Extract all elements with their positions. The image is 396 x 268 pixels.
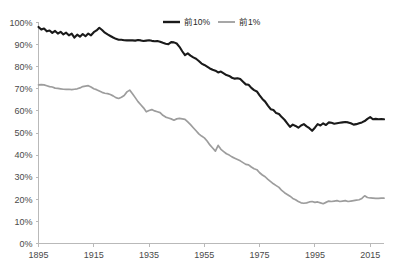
y-tick-label: 80%	[14, 62, 32, 72]
y-tick-label: 0%	[19, 239, 32, 249]
y-tick-label: 50%	[14, 128, 32, 138]
y-tick-label: 90%	[14, 40, 32, 50]
x-tick-label: 1955	[194, 250, 214, 260]
x-tick-label: 1975	[250, 250, 270, 260]
legend-label: 前10%	[184, 17, 210, 27]
x-tick-label: 2015	[360, 250, 380, 260]
y-tick-label: 60%	[14, 106, 32, 116]
y-tick-label: 40%	[14, 150, 32, 160]
y-tick-label: 30%	[14, 172, 32, 182]
x-tick-label: 1935	[139, 250, 159, 260]
line-chart: 0%10%20%30%40%50%60%70%80%90%100% 189519…	[0, 0, 396, 268]
legend-label: 前1%	[239, 17, 261, 27]
series-lines	[39, 27, 385, 204]
series-line	[39, 85, 385, 204]
x-tick-label: 1915	[84, 250, 104, 260]
y-tick-label: 100%	[9, 18, 32, 28]
x-axis-tick-labels: 1895191519351955197519952015	[28, 250, 380, 260]
x-tick-label: 1895	[28, 250, 48, 260]
chart-legend: 前10%前1%	[163, 17, 261, 27]
chart-canvas: 0%10%20%30%40%50%60%70%80%90%100% 189519…	[0, 0, 396, 268]
y-tick-label: 10%	[14, 217, 32, 227]
x-tick-label: 1995	[305, 250, 325, 260]
y-tick-label: 20%	[14, 195, 32, 205]
series-line	[39, 27, 385, 131]
y-tick-label: 70%	[14, 84, 32, 94]
y-axis-tick-labels: 0%10%20%30%40%50%60%70%80%90%100%	[9, 18, 32, 249]
